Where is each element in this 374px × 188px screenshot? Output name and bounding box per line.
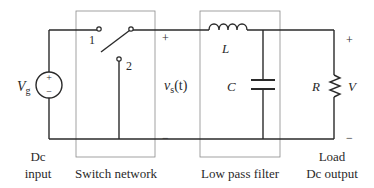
switch-terminal-2: 2 [126, 59, 132, 73]
output-voltage-label: V [348, 79, 358, 94]
source-minus: − [46, 86, 52, 97]
output-minus: − [346, 131, 353, 145]
switch-network-box [76, 11, 155, 157]
spdt-switch-icon [97, 27, 133, 139]
capacitor-icon [251, 30, 275, 139]
capacitor-label: C [227, 79, 236, 94]
caption-dc-output: Dc output [306, 166, 358, 181]
source-plus: + [46, 72, 52, 83]
resistor-label: R [311, 79, 320, 94]
caption-switch-network: Switch network [75, 166, 157, 181]
source-label: Vg [17, 79, 31, 96]
caption-input: input [25, 166, 52, 181]
vs-minus: − [162, 131, 169, 145]
vs-plus: + [162, 31, 169, 45]
caption-low-pass-filter: Low pass filter [201, 166, 280, 181]
caption-dc: Dc [30, 149, 45, 164]
dc-voltage-source-icon [36, 30, 62, 139]
vs-label: vs(t) [164, 78, 188, 95]
switch-terminal-1: 1 [89, 33, 95, 47]
output-plus: + [346, 33, 353, 47]
inductor-icon [209, 24, 247, 30]
caption-load: Load [319, 149, 346, 164]
circuit-diagram: + − Vg 1 2 + − vs(t) L C R V + − Dc i [0, 0, 374, 188]
resistor-icon [330, 30, 340, 139]
low-pass-filter-box [200, 11, 280, 157]
inductor-label: L [221, 41, 229, 56]
